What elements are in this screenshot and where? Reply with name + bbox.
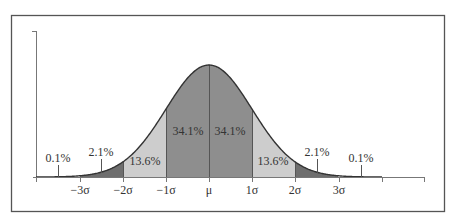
tick-label-2-sigma: 2σ — [289, 183, 302, 197]
label-right-tail: 0.1% — [349, 151, 374, 165]
label-right-center: 34.1% — [215, 124, 246, 138]
tick-label-3-sigma: 3σ — [333, 183, 346, 197]
label-right-2sd: 2.1% — [305, 145, 330, 159]
tick-label-mu: μ — [206, 183, 212, 197]
tick-label-minus-1-sigma: −1σ — [156, 183, 176, 197]
label-left-2sd: 2.1% — [89, 145, 114, 159]
label-left-center: 34.1% — [173, 124, 204, 138]
tick-label-minus-3-sigma: −3σ — [70, 183, 90, 197]
label-right-1sd: 13.6% — [258, 154, 289, 168]
label-left-tail: 0.1% — [46, 151, 71, 165]
label-left-1sd: 13.6% — [130, 154, 161, 168]
tick-label-minus-2-sigma: −2σ — [113, 183, 133, 197]
tick-label-1-sigma: 1σ — [246, 183, 259, 197]
normal-distribution-chart: −3σ −2σ −1σ μ 1σ 2σ 3σ 0.1% 2.1% 13.6% 3… — [0, 0, 455, 222]
